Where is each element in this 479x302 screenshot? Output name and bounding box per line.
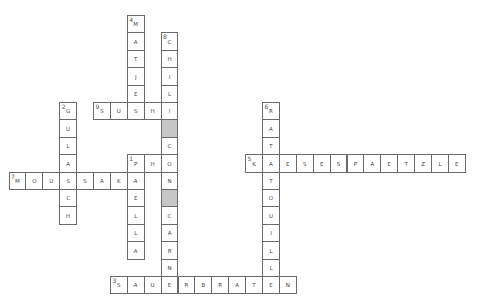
blocked-cell bbox=[161, 189, 179, 207]
cell-letter: A bbox=[134, 38, 138, 46]
crossword-cell[interactable]: 2G bbox=[59, 102, 77, 120]
crossword-cell[interactable]: A bbox=[127, 276, 145, 294]
crossword-cell[interactable]: U bbox=[110, 102, 128, 120]
crossword-cell[interactable]: B bbox=[194, 276, 212, 294]
crossword-cell[interactable]: 6R bbox=[262, 102, 280, 120]
cell-letter: T bbox=[404, 160, 407, 168]
cell-letter: L bbox=[134, 229, 137, 237]
crossword-cell[interactable]: R bbox=[211, 276, 229, 294]
cell-letter: R bbox=[218, 281, 222, 289]
cell-letter: U bbox=[151, 281, 155, 289]
crossword-cell[interactable]: C bbox=[161, 206, 179, 224]
crossword-cell[interactable]: 3S bbox=[110, 276, 128, 294]
crossword-cell[interactable]: L bbox=[127, 224, 145, 242]
cell-letter: S bbox=[66, 177, 70, 185]
crossword-cell[interactable]: U bbox=[42, 172, 60, 190]
crossword-grid: 1PHOAELLA2GULASCH3SAUERBRATEN4MATJES5KAE… bbox=[0, 0, 479, 302]
crossword-cell[interactable]: A bbox=[161, 224, 179, 242]
crossword-cell[interactable]: A bbox=[127, 241, 145, 259]
crossword-cell[interactable]: 8C bbox=[161, 32, 179, 50]
crossword-cell[interactable]: E bbox=[313, 154, 331, 172]
crossword-cell[interactable]: A bbox=[262, 154, 280, 172]
crossword-cell[interactable]: H bbox=[59, 206, 77, 224]
crossword-cell[interactable]: L bbox=[161, 85, 179, 103]
cell-letter: E bbox=[134, 194, 137, 202]
crossword-cell[interactable]: L bbox=[59, 137, 77, 155]
cell-letter: R bbox=[269, 107, 273, 115]
crossword-cell[interactable]: N bbox=[279, 276, 297, 294]
crossword-cell[interactable]: O bbox=[25, 172, 43, 190]
cell-letter: A bbox=[134, 281, 138, 289]
crossword-cell[interactable]: A bbox=[228, 276, 246, 294]
crossword-cell[interactable]: C bbox=[59, 189, 77, 207]
crossword-cell[interactable]: K bbox=[110, 172, 128, 190]
crossword-cell[interactable]: C bbox=[161, 137, 179, 155]
crossword-cell[interactable]: 4M bbox=[127, 15, 145, 33]
crossword-cell[interactable]: S bbox=[296, 154, 314, 172]
crossword-cell[interactable]: J bbox=[127, 67, 145, 85]
crossword-cell[interactable]: E bbox=[262, 276, 280, 294]
crossword-cell[interactable]: Z bbox=[414, 154, 432, 172]
crossword-cell[interactable]: N bbox=[161, 259, 179, 277]
crossword-cell[interactable]: E bbox=[161, 276, 179, 294]
cell-letter: C bbox=[168, 142, 172, 150]
crossword-cell[interactable]: T bbox=[127, 50, 145, 68]
crossword-cell[interactable]: A bbox=[262, 119, 280, 137]
cell-letter: I bbox=[169, 107, 171, 115]
crossword-cell[interactable]: A bbox=[127, 32, 145, 50]
crossword-cell[interactable]: R bbox=[178, 276, 196, 294]
cell-letter: J bbox=[135, 73, 137, 81]
cell-letter: T bbox=[252, 281, 255, 289]
cell-letter: U bbox=[66, 125, 70, 133]
crossword-cell[interactable]: 5K bbox=[245, 154, 263, 172]
crossword-cell[interactable]: L bbox=[127, 206, 145, 224]
crossword-cell[interactable]: L bbox=[431, 154, 449, 172]
crossword-cell[interactable]: O bbox=[262, 189, 280, 207]
crossword-cell[interactable]: H bbox=[144, 154, 162, 172]
crossword-cell[interactable]: N bbox=[161, 172, 179, 190]
cell-letter: H bbox=[151, 160, 155, 168]
crossword-cell[interactable]: A bbox=[93, 172, 111, 190]
crossword-cell[interactable]: S bbox=[76, 172, 94, 190]
crossword-cell[interactable]: A bbox=[127, 172, 145, 190]
crossword-cell[interactable]: I bbox=[262, 224, 280, 242]
crossword-cell[interactable]: O bbox=[161, 154, 179, 172]
crossword-cell[interactable]: 1P bbox=[127, 154, 145, 172]
crossword-cell[interactable]: 9S bbox=[93, 102, 111, 120]
crossword-cell[interactable]: S bbox=[59, 172, 77, 190]
cell-letter: A bbox=[370, 160, 374, 168]
crossword-cell[interactable]: E bbox=[279, 154, 297, 172]
cell-letter: K bbox=[252, 160, 256, 168]
crossword-cell[interactable]: L bbox=[262, 259, 280, 277]
crossword-cell[interactable]: E bbox=[448, 154, 466, 172]
crossword-cell[interactable]: A bbox=[59, 154, 77, 172]
crossword-cell[interactable]: I bbox=[161, 67, 179, 85]
cell-letter: R bbox=[168, 247, 172, 255]
cell-letter: C bbox=[168, 38, 172, 46]
crossword-cell[interactable]: U bbox=[59, 119, 77, 137]
crossword-cell[interactable]: R bbox=[161, 241, 179, 259]
crossword-cell[interactable]: A bbox=[363, 154, 381, 172]
crossword-cell[interactable]: U bbox=[262, 206, 280, 224]
cell-letter: U bbox=[117, 107, 121, 115]
crossword-cell[interactable]: S bbox=[330, 154, 348, 172]
crossword-cell[interactable]: E bbox=[127, 85, 145, 103]
crossword-cell[interactable]: S bbox=[127, 102, 145, 120]
crossword-cell[interactable]: 7M bbox=[9, 172, 27, 190]
crossword-cell[interactable]: T bbox=[397, 154, 415, 172]
crossword-cell[interactable]: T bbox=[262, 172, 280, 190]
crossword-cell[interactable]: I bbox=[161, 102, 179, 120]
cell-letter: S bbox=[303, 160, 307, 168]
crossword-cell[interactable]: P bbox=[347, 154, 365, 172]
crossword-cell[interactable]: H bbox=[144, 102, 162, 120]
crossword-cell[interactable]: U bbox=[144, 276, 162, 294]
cell-letter: E bbox=[168, 281, 171, 289]
cell-letter: K bbox=[117, 177, 121, 185]
crossword-cell[interactable]: H bbox=[161, 50, 179, 68]
crossword-cell[interactable]: T bbox=[262, 137, 280, 155]
cell-letter: H bbox=[151, 107, 155, 115]
crossword-cell[interactable]: E bbox=[380, 154, 398, 172]
crossword-cell[interactable]: L bbox=[262, 241, 280, 259]
crossword-cell[interactable]: E bbox=[127, 189, 145, 207]
crossword-cell[interactable]: T bbox=[245, 276, 263, 294]
